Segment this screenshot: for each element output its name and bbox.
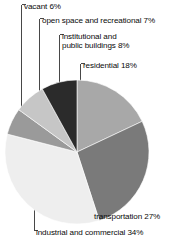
- pie-label-vacant: vacant 6%: [24, 2, 61, 11]
- pie-label-residential: residential 18%: [83, 61, 137, 70]
- pie-label-transportation: transportation 27%: [94, 212, 160, 221]
- pie-label-open-space-and-recreational: open space and recreational 7%: [42, 16, 155, 25]
- pie-label-industrial-and-commercial: industrial and commercial 34%: [36, 228, 143, 237]
- pie-label-institutional-and-public-buildings: institutional andpublic buildings 8%: [62, 32, 129, 51]
- pie-label-institutional-line1: institutional and: [62, 32, 117, 41]
- pie-slices: [5, 80, 149, 224]
- pie-label-institutional-line2: public buildings 8%: [62, 41, 129, 50]
- pie-chart-figure: vacant 6% open space and recreational 7%…: [0, 0, 182, 244]
